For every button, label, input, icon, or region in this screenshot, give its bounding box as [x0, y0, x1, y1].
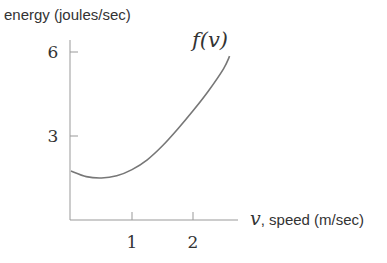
y-tick-label: 6	[48, 42, 59, 62]
x-axis-variable: v	[250, 207, 261, 229]
x-axis-text: , speed (m/sec)	[261, 211, 364, 228]
curve-f-of-v	[71, 56, 230, 178]
y-axis-label: energy (joules/sec)	[4, 6, 131, 23]
x-tick-label: 2	[188, 232, 199, 252]
x-axis-label: v, speed (m/sec)	[250, 207, 364, 229]
axis-ticks	[70, 52, 193, 220]
y-tick-label: 3	[48, 126, 59, 146]
curve-label: f(v)	[192, 28, 228, 52]
x-tick-label: 1	[127, 232, 138, 252]
